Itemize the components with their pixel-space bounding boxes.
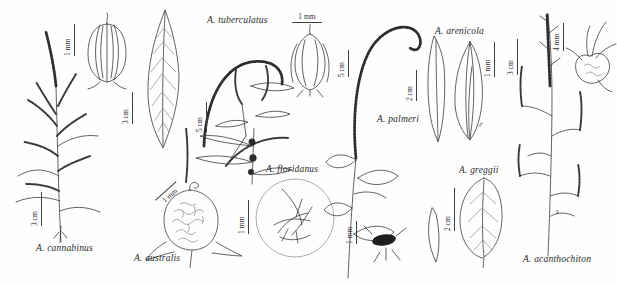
scale-bar-label: 5 cm: [338, 50, 346, 77]
scale-bar-australis-leaf: 3 cm: [122, 92, 133, 124]
species-label-acanthochiton: A. acanthochiton: [523, 254, 591, 264]
botanical-plate: 1 mm 3 cm 3 cm 5 cm 1 mm 1 mm 1 mm 5 cm …: [0, 0, 617, 282]
scale-bar-label: 4 mm: [553, 23, 561, 51]
cannabinus-utricle-illustration: [80, 12, 134, 90]
scale-bar-tuberculatus-plant: 5 cm: [196, 102, 207, 132]
scale-bar-line: [41, 192, 42, 226]
palmeri-plant-illustration: [322, 8, 434, 280]
scale-bar-label: 1 mm: [64, 24, 72, 56]
species-label-arenicola: A. arenicola: [435, 26, 484, 36]
scale-bar-arenicola-bud: 1 mm: [484, 42, 495, 77]
species-label-cannabinus: A. cannabinus: [36, 243, 93, 253]
scale-bar-label: 3 cm: [507, 39, 515, 75]
scale-bar-label: 5 cm: [196, 102, 204, 132]
scale-bar-line: [248, 200, 249, 234]
scale-bar-line: [494, 42, 495, 77]
scale-bar-floridanus-detail: 1 mm: [238, 200, 249, 234]
scale-bar-palmeri-leaf: 2 cm: [406, 70, 417, 101]
scale-bar-line: [356, 221, 357, 244]
greggii-leaf-illustration: [426, 170, 524, 268]
species-label-palmeri: A. palmeri: [377, 114, 419, 124]
scale-bar-line: [132, 92, 133, 124]
female-symbol: ♀: [554, 207, 561, 217]
scale-bar-cannabinus-plant: 3 cm: [31, 192, 42, 226]
scale-bar-tuberculatus-utricle: 1 mm: [292, 12, 322, 23]
scale-bar-label: 3 cm: [122, 92, 130, 124]
scale-bar-line: [563, 23, 564, 51]
scale-bar-line: [74, 24, 75, 56]
scale-bar-line: [416, 70, 417, 101]
male-symbol: ♂: [477, 120, 484, 130]
scale-bar-palmeri-plant: 5 cm: [338, 50, 349, 77]
scale-bar-label: 1 mm: [298, 12, 315, 21]
scale-bar-label: 1 mm: [238, 200, 246, 234]
scale-bar-label: 1 mm: [346, 221, 354, 244]
scale-bar-label: 3 cm: [31, 192, 39, 226]
species-label-floridanus: A. floridanus: [266, 164, 318, 174]
scale-bar-label: 2 cm: [406, 70, 414, 101]
scale-bar-line: [206, 102, 207, 132]
scale-bar-acanthochiton-fruit: 4 mm: [553, 23, 564, 51]
scale-bar-acanthochiton-plant: 3 cm: [507, 39, 518, 75]
species-label-australis: A. australis: [134, 253, 180, 263]
scale-bar-palmeri-flower: 1 mm: [346, 221, 357, 244]
species-label-greggii: A. greggii: [459, 165, 499, 175]
acanthochiton-fruit-illustration: [562, 16, 617, 92]
scale-bar-line: [517, 39, 518, 75]
scale-bar-line: [454, 188, 455, 231]
scale-bar-line: [348, 50, 349, 77]
scale-bar-line: [292, 22, 322, 23]
scale-bar-label: 2 cm: [444, 188, 452, 231]
scale-bar-cannabinus-utricle: 1 mm: [64, 24, 75, 56]
scale-bar-label: 1 mm: [484, 42, 492, 77]
species-label-tuberculatus: A. tuberculatus: [207, 15, 268, 25]
scale-bar-greggii-leaf: 2 cm: [444, 188, 455, 231]
